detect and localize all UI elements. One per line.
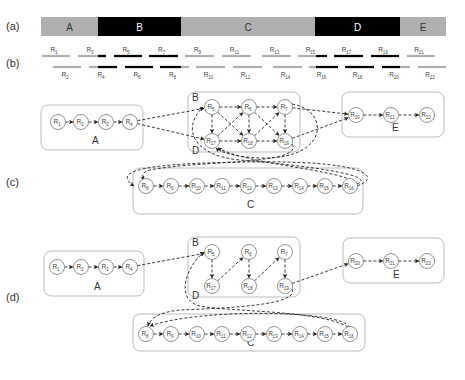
panel-d-simplified-graph: (d)ABDECR1R2R3R4R5R6R7R17R18R19R20R21R22…: [6, 237, 444, 351]
group-label: E: [393, 269, 400, 280]
group-d: D: [192, 290, 199, 301]
read-r5: R5: [114, 46, 142, 56]
panel-d-label: (d): [6, 291, 19, 303]
node-r1: R1: [50, 260, 65, 275]
read-r3: R3: [78, 46, 106, 56]
node-r4: R4: [123, 115, 138, 130]
svg-text:R6: R6: [133, 71, 141, 80]
svg-text:R9: R9: [194, 46, 202, 55]
node-r19: R19: [278, 279, 293, 294]
segment-a: A: [41, 17, 98, 36]
edges: [65, 252, 420, 334]
node-r3: R3: [99, 260, 114, 275]
edge-r19-r20: [292, 118, 348, 139]
read-r11: R11: [222, 46, 251, 56]
read-r19: R19: [371, 46, 399, 56]
node-r21: R21: [384, 108, 399, 123]
svg-text:R14: R14: [281, 71, 291, 80]
node-r1: R1: [51, 115, 66, 130]
node-r15: R15: [318, 179, 333, 194]
node-r19: R19: [278, 134, 293, 149]
node-r2: R2: [74, 260, 89, 275]
node-r9: R9: [164, 179, 179, 194]
edge-r17-r6: [218, 257, 244, 281]
panel-c-label: (c): [6, 176, 19, 188]
node-r17: R17: [205, 134, 220, 149]
node-r11: R11: [215, 327, 230, 342]
segment-label: B: [136, 22, 143, 33]
node-r18: R18: [242, 134, 257, 149]
segment-d: D: [315, 17, 400, 36]
svg-text:R8: R8: [169, 71, 177, 80]
svg-text:R7: R7: [158, 46, 166, 55]
edge-r7-r20: [292, 108, 348, 114]
diagram-canvas: (a)ABCDE (b)R1R3R5R7R9R11R13R15R17R19R21…: [0, 0, 465, 380]
segment-c: C: [181, 17, 315, 36]
read-r6: R6: [125, 67, 153, 80]
svg-text:R11: R11: [230, 46, 240, 55]
group-d: D: [192, 145, 199, 156]
svg-text:R1: R1: [50, 46, 58, 55]
node-r20: R20: [349, 254, 364, 269]
segment-e: E: [400, 17, 446, 36]
read-r1: R1: [42, 46, 70, 56]
node-r14: R14: [293, 179, 308, 194]
svg-text:R18: R18: [353, 71, 363, 80]
segment-b: B: [98, 17, 181, 36]
edge-7-to-17: [216, 104, 317, 158]
read-r13: R13: [262, 46, 291, 56]
panel-c-overlap-graph: (c)ABDECR1R2R3R4R5R6R7R17R18R19R20R21R22…: [6, 92, 444, 214]
group-label: D: [192, 145, 199, 156]
read-r14: R14: [273, 67, 302, 80]
node-r12: R12: [241, 179, 256, 194]
group-label: A: [92, 135, 99, 146]
edge-r4-r5: [137, 253, 204, 265]
svg-text:R13: R13: [270, 46, 280, 55]
node-r15: R15: [318, 327, 333, 342]
node-r8: R8: [139, 179, 154, 194]
node-r8: R8: [139, 327, 154, 342]
segment-label: D: [354, 22, 361, 33]
svg-text:R17: R17: [342, 46, 352, 55]
node-r5: R5: [205, 100, 220, 115]
svg-text:R22: R22: [425, 71, 435, 80]
node-r3: R3: [99, 115, 114, 130]
node-r21: R21: [384, 254, 399, 269]
node-r13: R13: [267, 327, 282, 342]
node-r5: R5: [205, 245, 220, 260]
node-r2: R2: [74, 115, 89, 130]
read-r16: R16: [309, 67, 338, 80]
group-label: B: [192, 92, 199, 103]
segment-label: C: [244, 22, 251, 33]
node-r16: R16: [343, 179, 358, 194]
panel-b-label: (b): [6, 57, 19, 69]
panel-b-read-layout: (b)R1R3R5R7R9R11R13R15R17R19R21R2R4R6R8R…: [6, 46, 446, 80]
svg-text:R20: R20: [389, 71, 399, 80]
node-r12: R12: [241, 327, 256, 342]
node-r7: R7: [278, 100, 293, 115]
panel-a-label: (a): [6, 20, 19, 32]
svg-text:R19: R19: [378, 46, 388, 55]
node-r6: R6: [242, 245, 257, 260]
node-r20: R20: [349, 108, 364, 123]
node-r14: R14: [293, 327, 308, 342]
read-r21: R21: [407, 46, 435, 56]
group-label: E: [392, 122, 399, 133]
node-r9: R9: [164, 327, 179, 342]
read-r4: R4: [89, 67, 117, 80]
group-label: A: [94, 281, 101, 292]
svg-text:R5: R5: [122, 46, 130, 55]
read-r15: R15: [298, 46, 327, 56]
read-r8: R8: [160, 67, 189, 80]
node-r7: R7: [278, 245, 293, 260]
group-label: B: [192, 237, 199, 248]
node-r6: R6: [242, 100, 257, 115]
edge-16-to-8-top: [150, 313, 350, 327]
node-r10: R10: [190, 327, 205, 342]
node-r17: R17: [205, 279, 220, 294]
group-label: C: [247, 199, 254, 210]
node-r16: R16: [343, 327, 358, 342]
read-r22: R22: [418, 67, 446, 80]
node-r11: R11: [215, 179, 230, 194]
node-r22: R22: [420, 108, 435, 123]
